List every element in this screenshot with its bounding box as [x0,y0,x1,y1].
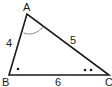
side-label-bc: 6 [55,76,61,87]
side-label-ac: 5 [70,34,76,46]
side-label-ab: 4 [6,37,12,49]
angle-c-dot-mark-1 [84,69,87,72]
angle-b-dot-mark [17,68,20,71]
triangle-diagram: A B C 4 5 6 [0,0,112,87]
triangle-abc [9,14,109,75]
angle-a-arc-mark [24,27,44,34]
vertex-label-a: A [23,1,31,13]
angle-c-dot-mark-2 [90,69,93,72]
vertex-label-b: B [2,76,9,87]
vertex-label-c: C [105,76,112,87]
